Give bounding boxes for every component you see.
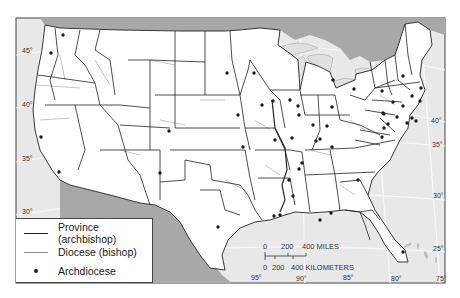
archdiocese-marker — [395, 115, 398, 118]
scale-km-0: 0 — [263, 263, 267, 272]
scale-miles-400: 400 MILES — [302, 242, 339, 251]
province-line-swatch — [24, 233, 48, 234]
legend-label: Province (archbishop) — [58, 221, 152, 245]
archdiocese-marker — [236, 113, 239, 116]
scale-miles-200: 200 — [281, 242, 294, 251]
archdiocese-marker — [225, 71, 228, 74]
map-legend: Province (archbishop) Diocese (bishop) A… — [16, 218, 153, 283]
scale-miles-0: 0 — [263, 242, 267, 251]
archdiocese-marker — [380, 135, 383, 138]
archdiocese-marker — [381, 111, 384, 114]
archdiocese-marker — [288, 98, 291, 101]
archdiocese-marker — [273, 138, 276, 141]
legend-item-province: Province (archbishop) — [24, 226, 152, 240]
archdiocese-marker — [260, 103, 263, 106]
archdiocese-marker — [297, 167, 300, 170]
archdiocese-marker — [61, 33, 64, 36]
archdiocese-marker — [318, 218, 321, 221]
archdiocese-marker — [380, 89, 383, 92]
archdiocese-marker — [241, 145, 244, 148]
coordinate-label: 90° — [296, 275, 307, 282]
coordinate-label: 35° — [22, 155, 33, 162]
archdiocese-marker — [329, 211, 332, 214]
archdiocese-marker — [418, 99, 421, 102]
coordinate-label: 75° — [436, 275, 447, 282]
coordinate-label: 30° — [22, 208, 33, 215]
coordinate-label: 85° — [343, 274, 354, 281]
archdiocese-marker — [352, 87, 355, 90]
coordinate-label: 95° — [251, 274, 262, 281]
archdiocese-marker — [401, 250, 404, 253]
archdiocese-marker — [410, 94, 413, 97]
archdiocese-marker — [290, 136, 293, 139]
archdiocese-marker — [410, 116, 413, 119]
archdiocese-marker — [300, 161, 303, 164]
archdiocese-marker — [296, 104, 299, 107]
coordinate-label: 40° — [431, 117, 442, 124]
archdiocese-marker — [391, 100, 394, 103]
archdiocese-marker — [287, 178, 290, 181]
archdiocese-marker — [386, 122, 389, 125]
archdiocese-marker — [330, 145, 333, 148]
archdiocese-marker — [57, 170, 60, 173]
legend-item-diocese: Diocese (bishop) — [24, 245, 137, 259]
scale-km-200: 200 — [272, 263, 285, 272]
archdiocese-marker — [314, 139, 317, 142]
archdiocese-marker — [356, 178, 359, 181]
coordinate-label: 45° — [22, 47, 33, 54]
diocese-line-swatch — [24, 252, 48, 253]
coordinate-label: 80° — [391, 275, 402, 282]
archdiocese-marker — [419, 86, 422, 89]
archdiocese-marker — [49, 51, 52, 54]
archdiocese-marker — [382, 126, 385, 129]
coordinate-label: 35° — [432, 141, 443, 148]
archdiocese-marker — [414, 119, 417, 122]
archdiocese-marker — [405, 121, 408, 124]
archdiocese-marker — [278, 213, 281, 216]
coordinate-label: 25° — [433, 245, 444, 252]
archdiocese-marker — [311, 123, 314, 126]
archdiocese-dot-icon — [24, 269, 48, 273]
archdiocese-marker — [272, 214, 275, 217]
archdiocese-marker — [330, 105, 333, 108]
archdiocese-marker — [158, 171, 161, 174]
archdiocese-marker — [252, 71, 255, 74]
archdiocese-marker — [331, 78, 334, 81]
archdiocese-marker — [291, 194, 294, 197]
legend-label: Archdiocese — [58, 265, 116, 277]
legend-label: Diocese (bishop) — [58, 246, 137, 258]
archdiocese-marker — [167, 129, 170, 132]
scale-km-400: 400 KILOMETERS — [291, 263, 354, 272]
coordinate-label: 40° — [22, 101, 33, 108]
legend-item-archdiocese: Archdiocese — [24, 264, 116, 278]
archdiocese-marker — [271, 99, 274, 102]
coordinate-label: 30° — [433, 192, 444, 199]
archdiocese-marker — [401, 104, 404, 107]
archdiocese-marker — [401, 74, 404, 77]
archdiocese-marker — [297, 113, 300, 116]
archdiocese-marker — [318, 137, 321, 140]
archdiocese-marker — [216, 225, 219, 228]
archdiocese-marker — [325, 124, 328, 127]
archdiocese-marker — [39, 135, 42, 138]
